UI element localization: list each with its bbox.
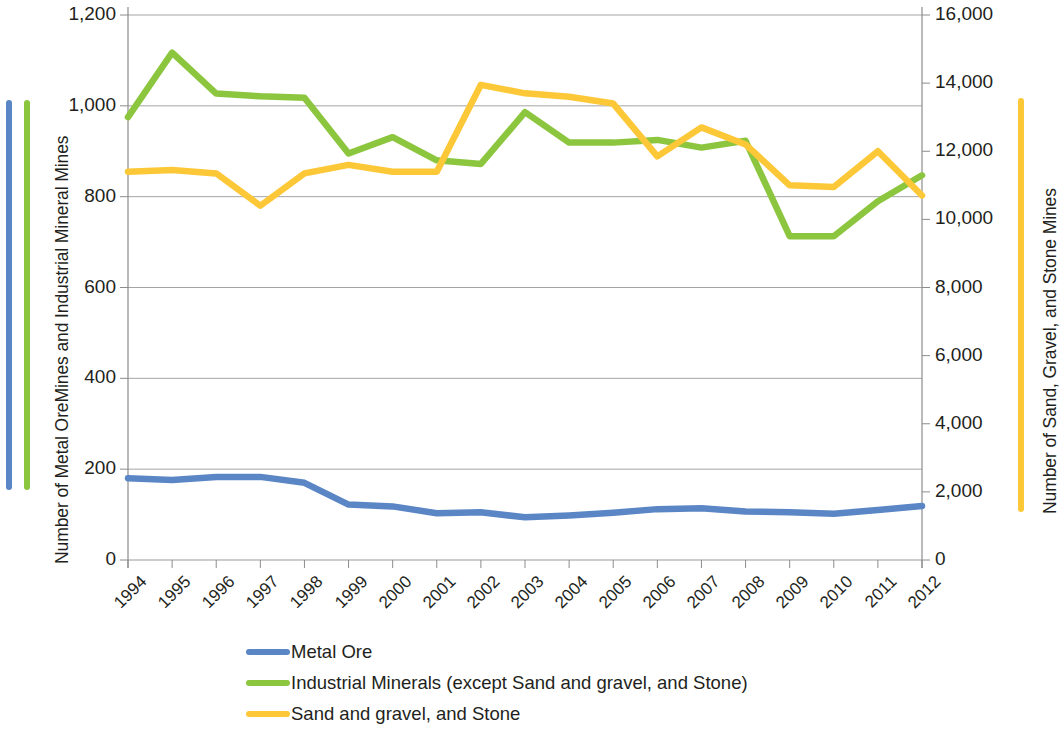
left-axis-title: Number of Metal OreMines and Industrial … [52, 136, 73, 564]
legend-label-sand-gravel-stone: Sand and gravel, and Stone [291, 703, 520, 725]
series-lines [128, 53, 922, 518]
legend-item-sand-gravel-stone: Sand and gravel, and Stone [246, 698, 946, 729]
legend-item-industrial-minerals: Industrial Minerals (except Sand and gra… [246, 667, 946, 698]
left-tick-0: 0 [105, 548, 116, 570]
x-axis-ticks [128, 560, 922, 568]
legend-swatch-metal-ore [246, 649, 290, 655]
right-axis-ticks [922, 15, 930, 560]
left-tick-400: 400 [84, 366, 116, 388]
right-tick-8000: 8,000 [935, 276, 983, 298]
plot-svg [128, 15, 922, 560]
left-tick-200: 200 [84, 457, 116, 479]
plot-area [128, 15, 922, 560]
right-tick-14000: 14,000 [935, 71, 993, 93]
right-tick-6000: 6,000 [935, 344, 983, 366]
legend-label-metal-ore: Metal Ore [291, 641, 372, 663]
right-tick-0: 0 [935, 548, 946, 570]
right-tick-12000: 12,000 [935, 139, 993, 161]
right-axis-title: Number of Sand, Gravel, and Stone Mines [1040, 188, 1061, 514]
left-tick-1000: 1,000 [68, 94, 116, 116]
right-tick-2000: 2,000 [935, 480, 983, 502]
legend-swatch-sand-gravel-stone [246, 711, 290, 717]
legend-swatch-industrial-minerals [246, 680, 290, 686]
right-tick-10000: 10,000 [935, 207, 993, 229]
legend-item-metal-ore: Metal Ore [246, 636, 946, 667]
left-tick-800: 800 [84, 185, 116, 207]
legend-label-industrial-minerals: Industrial Minerals (except Sand and gra… [291, 672, 748, 694]
left-tick-1200: 1,200 [68, 3, 116, 25]
left-axis-color-key-industrial-minerals [24, 100, 30, 490]
right-tick-4000: 4,000 [935, 412, 983, 434]
left-axis-color-key-metal-ore [6, 100, 12, 490]
right-tick-16000: 16,000 [935, 3, 993, 25]
right-axis-color-key-sand-gravel-stone [1018, 98, 1024, 512]
legend: Metal Ore Industrial Minerals (except Sa… [246, 636, 946, 729]
left-tick-600: 600 [84, 276, 116, 298]
